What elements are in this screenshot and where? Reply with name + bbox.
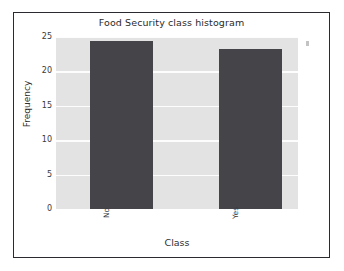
y-tick-15: 15 [26,102,52,110]
y-tick-10: 10 [26,136,52,144]
bar-no[interactable] [90,41,153,209]
x-axis-label: Class [56,237,298,248]
x-tick-no: No [102,200,111,226]
y-tick-20: 20 [26,67,52,75]
gridline-25 [56,37,298,38]
y-tick-0: 0 [26,205,52,213]
chart-title: Food Security class histogram [14,17,329,28]
y-tick-25: 25 [26,33,52,41]
bar-yes[interactable] [219,49,282,209]
plot-area [56,37,298,209]
y-tick-5: 5 [26,171,52,179]
figure-frame: Food Security class histogram Frequency … [13,12,330,258]
x-tick-yes: Yes [231,200,240,226]
image-artifact-speck [306,41,309,46]
y-axis-ticks: 25 20 15 10 5 0 [22,37,52,209]
